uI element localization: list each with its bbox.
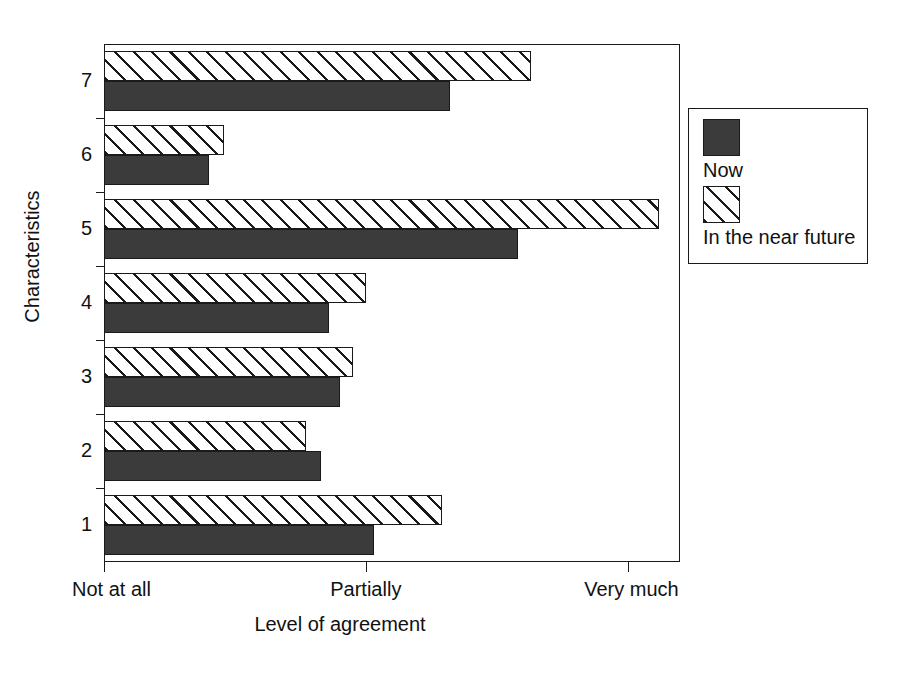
x-axis-tick xyxy=(104,562,105,572)
y-axis-title: Characteristics xyxy=(21,167,44,347)
bar-group xyxy=(104,495,680,555)
bar-group xyxy=(104,273,680,333)
x-tick-label-0: Not at all xyxy=(72,578,151,600)
legend-label-now: Now xyxy=(703,159,743,182)
x-axis-tick xyxy=(366,562,367,572)
bar-now xyxy=(104,525,374,555)
legend-item-now: Now xyxy=(703,119,743,182)
bar-now xyxy=(104,155,209,185)
bar-in-the-near-future xyxy=(104,273,366,303)
y-tick-label-2: 2 xyxy=(52,440,92,460)
bar-now xyxy=(104,81,450,111)
y-axis-tick xyxy=(96,118,105,119)
bar-in-the-near-future xyxy=(104,347,353,377)
bars-layer xyxy=(104,44,680,562)
legend-label-future: In the near future xyxy=(703,226,855,249)
bar-in-the-near-future xyxy=(104,199,659,229)
bar-now xyxy=(104,303,329,333)
y-tick-label-4: 4 xyxy=(52,292,92,312)
y-tick-label-1: 1 xyxy=(52,514,92,534)
y-axis-tick xyxy=(96,414,105,415)
y-tick-label-3: 3 xyxy=(52,366,92,386)
y-tick-label-7: 7 xyxy=(52,70,92,90)
bar-chart-figure: 1234567 Not at allPartiallyVery much Lev… xyxy=(0,0,910,673)
bar-now xyxy=(104,229,518,259)
y-axis-tick xyxy=(96,266,105,267)
bar-in-the-near-future xyxy=(104,51,531,81)
y-tick-label-5: 5 xyxy=(52,218,92,238)
bar-group xyxy=(104,199,680,259)
x-tick-label-2: Very much xyxy=(584,578,678,600)
bar-in-the-near-future xyxy=(104,495,442,525)
y-axis-tick xyxy=(96,488,105,489)
bar-group xyxy=(104,51,680,111)
bar-group xyxy=(104,421,680,481)
x-tick-label-1: Partially xyxy=(330,578,401,600)
legend: Now In the near future xyxy=(688,108,868,264)
bar-in-the-near-future xyxy=(104,125,224,155)
x-axis-tick xyxy=(628,562,629,572)
bar-group xyxy=(104,125,680,185)
y-tick-label-6: 6 xyxy=(52,144,92,164)
x-axis-title: Level of agreement xyxy=(0,613,680,636)
bar-now xyxy=(104,377,340,407)
y-axis-tick xyxy=(96,192,105,193)
bar-group xyxy=(104,347,680,407)
legend-item-future: In the near future xyxy=(703,186,855,249)
solid-dark-swatch-icon xyxy=(703,119,740,156)
bar-in-the-near-future xyxy=(104,421,306,451)
y-axis-tick xyxy=(96,340,105,341)
bar-now xyxy=(104,451,321,481)
hatched-swatch-icon xyxy=(703,186,740,223)
